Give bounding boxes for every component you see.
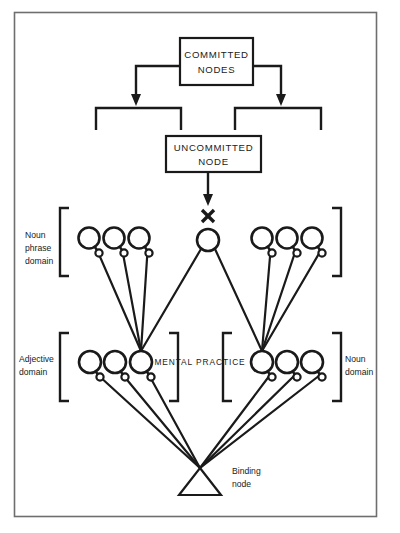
committed-nodes-box-rect: [180, 38, 253, 85]
noun-phrase-domain-bracket-left: [60, 208, 69, 276]
adjective-domain-label-line2: domain: [19, 367, 47, 377]
binding-node-label-line1: Binding: [232, 466, 261, 476]
adjective-domain-label-line1: Adjective: [19, 354, 54, 364]
adjective-domain-label: Adjective domain: [19, 354, 54, 377]
node-with-synapse: [252, 228, 276, 257]
adjective-domain-bracket-left: [60, 333, 69, 401]
down-arrowhead: [203, 194, 213, 206]
node-with-synapse: [301, 351, 326, 381]
noun-domain-label-line1: Noun: [345, 354, 366, 364]
node-with-synapse: [276, 351, 301, 381]
figure-border: [15, 13, 377, 517]
noun-phrase-domain-label-line1: Noun: [25, 230, 46, 240]
mental-practice-label: MENTAL PRACTICE: [154, 357, 245, 367]
committed-left-connector: [131, 66, 180, 106]
noun-phrase-domain-label-line2: phrase: [25, 243, 51, 253]
noun-phrase-domain-label-line3: domain: [25, 256, 53, 266]
noun-domain-bracket-right: [332, 333, 341, 401]
committed-nodes-label-line2: NODES: [198, 64, 236, 75]
node-with-synapse: [79, 228, 103, 257]
right-arrowhead: [276, 94, 286, 106]
adjective-domain-nodes: [79, 351, 155, 381]
node-with-synapse: [251, 351, 276, 381]
node-with-synapse: [130, 351, 155, 381]
upper-fan-links: [98, 249, 321, 351]
uncommitted-node-box: UNCOMMITTED NODE: [166, 136, 261, 172]
blocked-connection-x-icon: [202, 210, 214, 222]
binding-node-label-line2: node: [232, 479, 251, 489]
node-with-synapse: [129, 228, 153, 257]
lower-fan-links: [98, 375, 320, 468]
center-uncommitted-node: [197, 229, 219, 251]
uncommitted-down-connector: [203, 172, 213, 206]
node-with-synapse: [277, 228, 301, 257]
committed-left-span-bracket: [96, 108, 181, 130]
noun-domain-label: Noun domain: [345, 354, 373, 377]
left-arrowhead: [131, 94, 141, 106]
node-with-synapse: [104, 228, 128, 257]
binding-node-triangle: [179, 468, 221, 495]
binding-node-label: Binding node: [232, 466, 261, 489]
noun-domain-bracket-left: [223, 333, 232, 401]
noun-domain-nodes: [251, 351, 326, 381]
noun-phrase-left-nodes: [79, 228, 153, 257]
noun-phrase-right-nodes: [252, 228, 326, 257]
adjective-domain-bracket-right: [169, 333, 178, 401]
noun-phrase-domain-bracket-right: [332, 208, 341, 276]
figure-container: COMMITTED NODES UNCOMMITTED NODE: [0, 0, 400, 533]
uncommitted-node-label-line2: NODE: [198, 156, 229, 167]
committed-nodes-box: COMMITTED NODES: [180, 38, 253, 85]
committed-right-connector: [253, 66, 286, 106]
committed-right-span-bracket: [235, 108, 321, 130]
noun-domain-label-line2: domain: [345, 367, 373, 377]
noun-phrase-domain-label: Noun phrase domain: [25, 230, 53, 266]
uncommitted-node-label-line1: UNCOMMITTED: [174, 142, 254, 153]
diagram-canvas: COMMITTED NODES UNCOMMITTED NODE: [0, 0, 400, 533]
node-with-synapse: [302, 228, 326, 257]
node-with-synapse: [104, 351, 129, 381]
committed-nodes-label-line1: COMMITTED: [184, 49, 248, 60]
node-with-synapse: [79, 351, 104, 381]
